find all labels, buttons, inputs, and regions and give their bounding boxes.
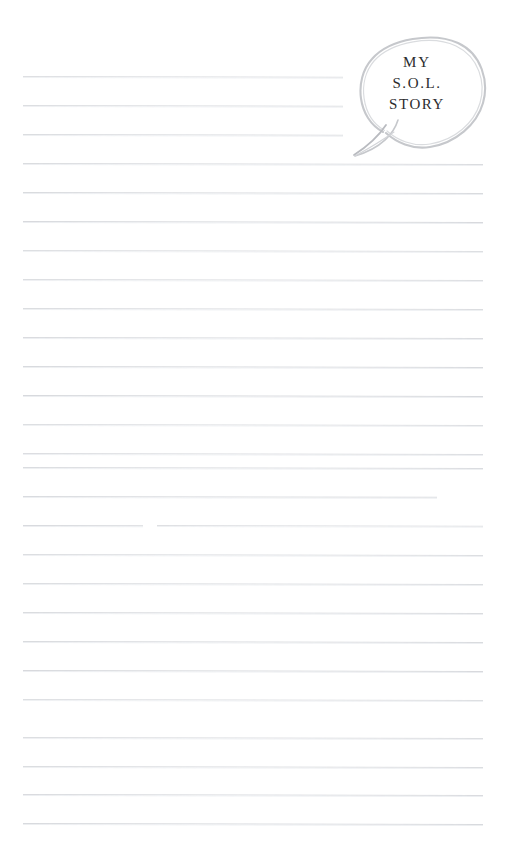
bubble-line-2: S.O.L.	[338, 73, 494, 94]
ruled-line	[23, 699, 483, 701]
ruled-line	[23, 105, 343, 107]
ruled-line	[23, 250, 483, 252]
ruled-line	[23, 134, 343, 136]
ruled-line	[23, 76, 343, 78]
ruled-line	[23, 221, 483, 223]
bubble-line-3: STORY	[338, 94, 494, 115]
ruled-line	[23, 192, 483, 194]
ruled-line	[23, 279, 483, 281]
speech-bubble: MY S.O.L. STORY	[338, 22, 494, 167]
ruled-line	[23, 337, 483, 339]
ruled-line	[23, 794, 483, 796]
ruled-line	[23, 737, 483, 739]
ruled-line	[23, 670, 483, 672]
ruled-line	[23, 395, 483, 397]
ruled-line	[23, 366, 483, 368]
ruled-line	[23, 525, 143, 526]
ruled-line	[157, 525, 483, 527]
bubble-line-1: MY	[338, 52, 494, 73]
ruled-line	[23, 308, 483, 310]
ruled-line	[23, 612, 483, 614]
ruled-line	[23, 766, 483, 768]
worksheet-page: MY S.O.L. STORY	[0, 0, 506, 856]
ruled-line	[23, 554, 483, 556]
ruled-line	[23, 424, 483, 426]
ruled-line	[23, 467, 483, 469]
ruled-line	[23, 496, 437, 498]
ruled-line	[23, 641, 483, 643]
ruled-line	[23, 583, 483, 585]
ruled-line	[23, 823, 483, 825]
ruled-line	[23, 453, 483, 455]
speech-bubble-text: MY S.O.L. STORY	[338, 52, 494, 115]
